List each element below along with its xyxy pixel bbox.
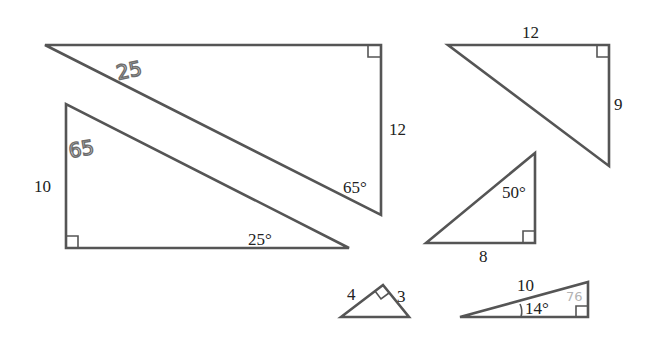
- triangle-6: 10 14° 76: [460, 276, 588, 318]
- right-angle-marker: [576, 306, 588, 317]
- triangle-5-right-label: 3: [397, 287, 406, 306]
- right-angle-marker: [368, 45, 381, 57]
- triangle-3-top-label: 12: [522, 23, 539, 42]
- triangle-5-left-label: 4: [347, 285, 356, 304]
- triangle-3-outline: [448, 45, 609, 166]
- angle-arc-marker: [520, 304, 522, 317]
- triangle-6-handwritten-note: 76: [566, 289, 583, 304]
- triangle-2-side-label: 10: [34, 177, 51, 196]
- triangle-5: 4 3: [341, 285, 409, 317]
- triangles-diagram: 12 65° 25 10 25° 65 12 9 50° 8 4 3 10 14…: [0, 0, 654, 351]
- right-angle-marker: [375, 291, 389, 299]
- right-angle-marker: [523, 231, 535, 243]
- triangle-1-side-label: 12: [389, 120, 406, 139]
- triangle-4-angle-label: 50°: [502, 183, 526, 202]
- triangle-6-hypotenuse-label: 10: [517, 276, 534, 295]
- triangle-2: 10 25° 65: [34, 104, 349, 249]
- triangle-4: 50° 8: [426, 153, 535, 266]
- triangle-2-angle-label: 25°: [248, 230, 272, 249]
- triangle-1-outline: [45, 45, 381, 215]
- triangle-1: 12 65° 25: [45, 45, 406, 215]
- triangle-3-side-label: 9: [614, 95, 623, 114]
- right-angle-marker: [66, 236, 78, 248]
- right-angle-marker: [597, 45, 609, 57]
- triangle-3: 12 9: [448, 23, 623, 166]
- triangle-6-angle-label: 14°: [525, 299, 549, 318]
- triangle-1-angle-label: 65°: [343, 178, 367, 197]
- triangle-2-handwritten-note: 65: [67, 135, 96, 163]
- triangle-4-side-label: 8: [479, 247, 488, 266]
- triangle-1-handwritten-note: 25: [114, 56, 144, 85]
